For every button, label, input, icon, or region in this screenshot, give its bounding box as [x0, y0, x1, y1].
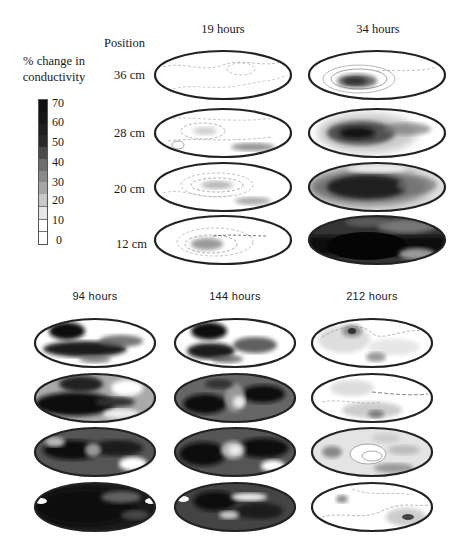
- map-20cm-212h: [312, 428, 432, 476]
- map-36cm-144h: [175, 319, 295, 367]
- map-36cm-212h: [312, 319, 432, 367]
- map-36cm-34h: [309, 51, 445, 99]
- map-12cm-212h: [312, 483, 432, 531]
- map-12cm-19h: [155, 216, 291, 264]
- map-12cm-34h: [309, 216, 445, 264]
- map-36cm-94h: [35, 319, 155, 367]
- map-36cm-19h: [155, 51, 291, 99]
- map-28cm-144h: [175, 374, 295, 422]
- map-20cm-94h: [35, 428, 155, 476]
- map-20cm-34h: [309, 163, 445, 211]
- map-28cm-94h: [35, 374, 155, 422]
- map-20cm-19h: [155, 163, 291, 211]
- map-28cm-19h: [155, 109, 291, 157]
- contour-map-grid: [0, 0, 467, 553]
- map-28cm-212h: [312, 374, 432, 422]
- map-20cm-144h: [175, 428, 295, 476]
- map-28cm-34h: [309, 109, 445, 157]
- map-12cm-94h: [35, 483, 157, 531]
- map-12cm-144h: [175, 483, 295, 531]
